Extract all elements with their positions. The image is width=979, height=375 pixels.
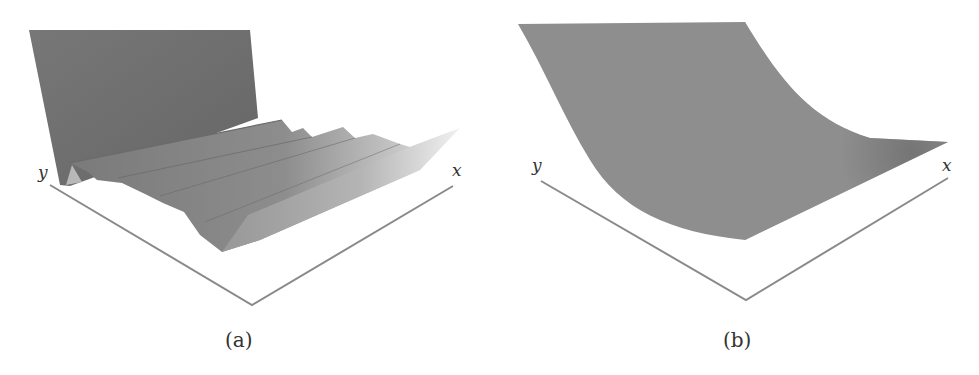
y-axis-label-b: y: [532, 155, 542, 175]
x-axis-label-b: x: [942, 155, 952, 175]
y-axis-label-a: y: [38, 162, 48, 182]
x-axis-label-a: x: [452, 160, 462, 180]
panel-a: y x (a): [0, 0, 490, 375]
surface-plot-a: [0, 0, 490, 375]
caption-b: (b): [723, 328, 751, 352]
caption-a: (a): [225, 328, 253, 352]
panel-b: y x (b): [490, 0, 979, 375]
curved-surface: [518, 22, 948, 240]
surface-plot-b: [490, 0, 979, 375]
